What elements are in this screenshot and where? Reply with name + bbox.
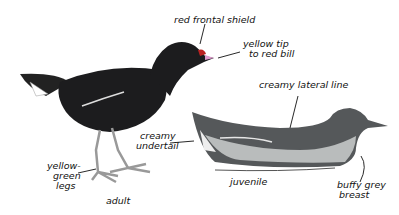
label-legs-3: legs [56,181,75,191]
label-creamy-undertail-2: undertail [136,141,179,151]
label-juvenile: juvenile [230,177,267,187]
label-red-frontal-shield: red frontal shield [174,15,255,25]
label-adult: adult [106,196,130,206]
juvenile-bird [192,108,388,171]
label-breast-2: breast [339,190,369,200]
label-creamy-lateral-line: creamy lateral line [259,80,348,90]
label-yellow-tip-2: to red bill [249,49,294,59]
